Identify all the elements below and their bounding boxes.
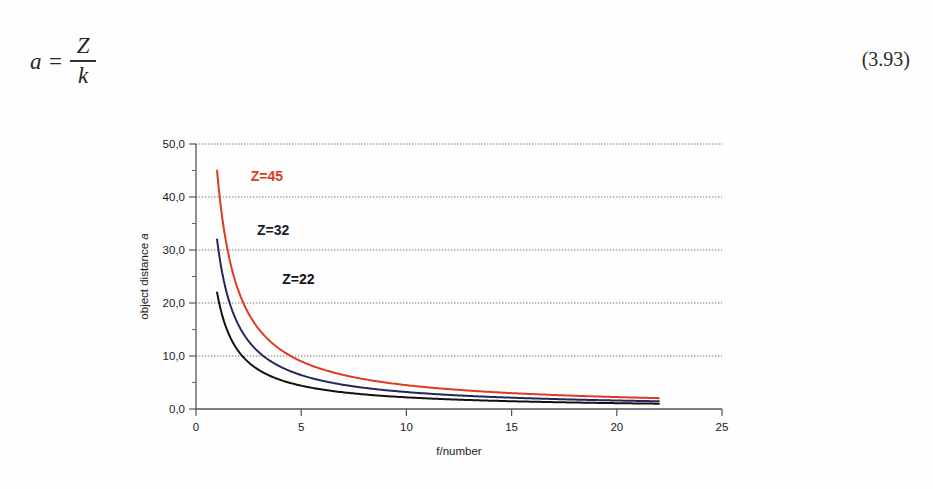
y-axis-title-text: object distance [138,240,150,320]
data-curves [217,171,659,404]
x-tick-label-15: 15 [505,421,518,433]
series-label-z-32: Z=32 [257,222,290,238]
x-axis-title: f/number [436,445,482,457]
equation-expression: a = Z k [30,34,96,90]
x-tick-label-10: 10 [400,421,413,433]
y-axis-title-variable: a [138,233,150,239]
object-distance-vs-fnumber-chart: 0,010,020,030,040,050,00510152025 Z=45Z=… [110,125,810,475]
equation-denominator: k [72,63,94,88]
y-tick-label-50: 50,0 [163,138,185,150]
series-label-z-45: Z=45 [251,168,284,184]
equation-equals-sign: = [48,49,71,75]
y-tick-label-0: 0,0 [169,403,185,415]
y-axis-title: object distance a [138,233,150,319]
x-tick-label-20: 20 [610,421,623,433]
y-tick-label-40: 40,0 [163,191,185,203]
fraction-bar [70,60,96,62]
equation-numerator: Z [71,34,96,59]
x-tick-label-25: 25 [716,421,729,433]
series-label-z-22: Z=22 [282,271,315,287]
curve-z-22 [217,292,659,403]
curve-z-32 [217,239,659,401]
y-tick-label-30: 30,0 [163,244,185,256]
chart-figure: 0,010,020,030,040,050,00510152025 Z=45Z=… [110,125,810,475]
equation-variable: a [30,49,48,75]
y-tick-label-20: 20,0 [163,297,185,309]
series-labels: Z=45Z=32Z=22 [251,168,315,287]
equation-block: a = Z k (3.93) [30,34,910,94]
y-tick-label-10: 10,0 [163,350,185,362]
x-tick-label-5: 5 [298,421,304,433]
axis-titles: f/numberobject distance a [138,233,482,457]
document-page: a = Z k (3.93) 0,010,020,030,040,050,005… [0,0,933,489]
equation-number: (3.93) [862,48,910,71]
x-tick-label-0: 0 [193,421,199,433]
equation-fraction: Z k [70,34,96,88]
